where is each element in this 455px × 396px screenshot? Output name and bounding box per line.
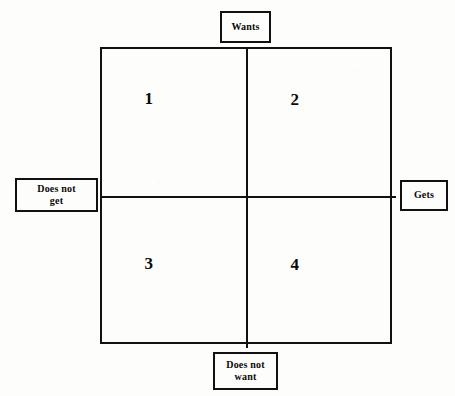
axis-label-bottom-text: Does not want — [226, 359, 265, 384]
quadrant-number-2: 2 — [291, 91, 300, 108]
axis-label-top-text: Wants — [231, 21, 259, 34]
axis-label-bottom: Does not want — [213, 352, 278, 390]
quadrant-cell-3: 3 — [102, 198, 248, 346]
axis-label-right: Gets — [400, 180, 448, 211]
axis-label-top: Wants — [220, 11, 271, 43]
quadrant-diagram: Wants Does not get Gets Does not want 1 … — [0, 0, 455, 396]
axis-label-left-text: Does not get — [37, 183, 76, 208]
axis-label-left: Does not get — [15, 178, 98, 212]
quadrant-cell-1: 1 — [102, 49, 248, 198]
quadrant-number-4: 4 — [291, 256, 300, 273]
quadrant-cell-4: 4 — [248, 198, 394, 346]
quadrant-number-3: 3 — [145, 255, 154, 272]
quadrant-number-1: 1 — [145, 90, 154, 107]
quadrant-cell-2: 2 — [248, 49, 394, 198]
matrix-outer-border: 1 2 3 4 — [100, 47, 392, 344]
axis-label-right-text: Gets — [414, 189, 434, 202]
